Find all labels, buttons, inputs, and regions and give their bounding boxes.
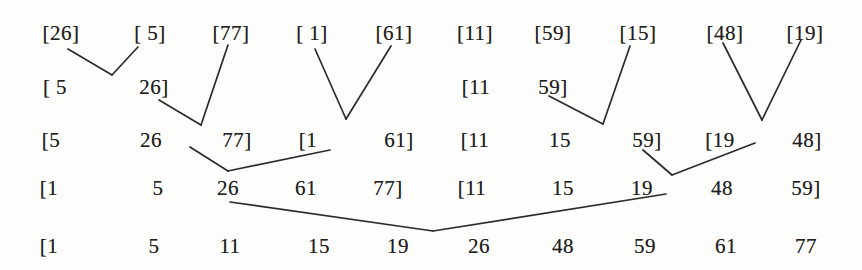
- merge-sort-diagram: [26][ 5][77][ 1][61][11][59][15][48][19]…: [0, 0, 862, 270]
- merge-line: [643, 150, 672, 175]
- array-token: [19]: [787, 23, 824, 44]
- array-token: [15]: [620, 23, 657, 44]
- array-token: 11: [219, 236, 240, 257]
- array-token: 61: [295, 178, 317, 199]
- merge-line: [315, 49, 346, 119]
- array-token: 59]: [632, 130, 662, 151]
- array-token: [19: [705, 130, 735, 151]
- merge-line: [603, 46, 630, 124]
- array-token: [11]: [457, 23, 493, 44]
- array-token: 26: [140, 130, 162, 151]
- array-token: 77]: [373, 178, 403, 199]
- array-token: [1: [299, 130, 318, 151]
- array-token: 77: [795, 236, 817, 257]
- array-token: [11: [462, 77, 491, 98]
- array-token: [59]: [535, 23, 572, 44]
- array-token: [77]: [213, 23, 250, 44]
- array-token: [11: [458, 178, 487, 199]
- array-token: [26]: [43, 23, 80, 44]
- array-token: 26]: [139, 77, 169, 98]
- merge-line: [159, 100, 201, 125]
- array-token: 48]: [792, 130, 822, 151]
- array-token: 15: [308, 236, 330, 257]
- array-token: 61: [715, 236, 737, 257]
- array-token: 48: [711, 178, 733, 199]
- array-token: 48: [552, 236, 574, 257]
- merge-line: [201, 45, 228, 125]
- array-token: [ 1]: [296, 23, 328, 44]
- array-token: 77]: [222, 130, 252, 151]
- merge-line: [549, 96, 603, 124]
- array-token: [5: [42, 130, 61, 151]
- array-token: 59]: [791, 178, 821, 199]
- array-token: [61]: [376, 23, 413, 44]
- array-token: [1: [40, 236, 59, 257]
- array-token: 19: [631, 178, 653, 199]
- merge-line: [230, 202, 433, 231]
- merge-line: [112, 47, 138, 75]
- array-token: [1: [40, 178, 59, 199]
- array-token: 5: [153, 178, 164, 199]
- array-token: 59]: [538, 77, 568, 98]
- array-token: 19: [387, 236, 409, 257]
- merge-line: [346, 46, 391, 119]
- array-token: 26: [217, 178, 239, 199]
- array-token: [ 5: [43, 77, 67, 98]
- array-token: 15: [549, 130, 571, 151]
- array-token: [ 5]: [134, 23, 166, 44]
- array-token: [48]: [707, 23, 744, 44]
- array-token: 15: [552, 178, 574, 199]
- array-token: 5: [149, 236, 160, 257]
- merge-line: [762, 40, 801, 120]
- merge-line: [723, 43, 762, 120]
- array-token: 59: [634, 236, 656, 257]
- array-token: 61]: [384, 130, 414, 151]
- merge-line: [228, 150, 330, 171]
- merge-line: [433, 194, 666, 231]
- array-token: 26: [468, 236, 490, 257]
- array-token: [11: [461, 130, 490, 151]
- merge-line: [68, 49, 112, 75]
